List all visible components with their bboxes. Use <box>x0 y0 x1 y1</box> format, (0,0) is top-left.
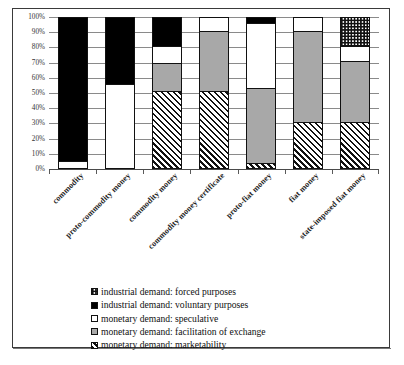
bar-segment[interactable] <box>293 31 323 122</box>
bar-stack[interactable] <box>105 17 135 169</box>
legend-swatch-icon <box>91 342 98 349</box>
y-axis-tick-label: 30% <box>32 119 45 127</box>
bar-segment[interactable] <box>246 17 276 23</box>
legend-label: monetary demand: speculative <box>101 314 218 324</box>
bar-segment[interactable] <box>152 63 182 92</box>
x-axis-category-label: commodity money <box>126 171 179 224</box>
bar-segment[interactable] <box>293 17 323 31</box>
bar-stack[interactable] <box>246 17 276 169</box>
bar-segment[interactable] <box>199 91 229 169</box>
plot-area <box>49 17 379 170</box>
bar-stack[interactable] <box>293 17 323 169</box>
x-axis-category-label: fiat money <box>287 171 320 204</box>
bar-segment[interactable] <box>58 161 88 169</box>
y-axis-tick-labels: 0%10%20%30%40%50%60%70%80%90%100% <box>13 9 47 169</box>
bar-segment[interactable] <box>199 31 229 92</box>
bar-segment[interactable] <box>152 46 182 63</box>
bar-stack[interactable] <box>152 17 182 169</box>
y-axis-tick-label: 20% <box>32 135 45 143</box>
bar-segment[interactable] <box>246 23 276 88</box>
y-axis-tick-label: 90% <box>32 28 45 36</box>
chart-frame: 0%10%20%30%40%50%60%70%80%90%100% commod… <box>12 8 390 348</box>
y-axis-tick-label: 50% <box>32 89 45 97</box>
legend-label: industrial demand: voluntary purposes <box>101 300 248 310</box>
x-axis-category-labels: commodityproto-commodity moneycommodity … <box>49 171 389 261</box>
bar-segment[interactable] <box>340 46 370 61</box>
bar-segment[interactable] <box>246 163 276 169</box>
bar-segment[interactable] <box>105 17 135 84</box>
y-axis-tick-label: 10% <box>32 150 45 158</box>
y-axis-tick-label: 100% <box>28 13 45 21</box>
bar-stack[interactable] <box>58 17 88 169</box>
chart-legend: industrial demand: forced purposesindust… <box>91 285 266 352</box>
bar-segment[interactable] <box>199 17 229 31</box>
legend-swatch-icon <box>91 315 98 322</box>
bar-segment[interactable] <box>152 17 182 46</box>
y-axis-tick-label: 70% <box>32 59 45 67</box>
y-axis-tick-label: 60% <box>32 74 45 82</box>
bar-segment[interactable] <box>340 61 370 122</box>
legend-item[interactable]: industrial demand: forced purposes <box>91 285 266 298</box>
legend-item[interactable]: industrial demand: voluntary purposes <box>91 298 266 311</box>
bar-segment[interactable] <box>58 17 88 161</box>
legend-item[interactable]: monetary demand: facilitation of exchang… <box>91 325 266 338</box>
bar-segment[interactable] <box>246 88 276 162</box>
bar-stack[interactable] <box>199 17 229 169</box>
legend-label: industrial demand: forced purposes <box>101 287 236 297</box>
bar-segment[interactable] <box>293 122 323 169</box>
x-axis-category-label: commodity <box>50 171 85 206</box>
legend-swatch-icon <box>91 302 98 309</box>
x-axis-line <box>49 169 379 170</box>
legend-label: monetary demand: marketability <box>101 340 226 350</box>
legend-label: monetary demand: facilitation of exchang… <box>101 327 266 337</box>
bar-segment[interactable] <box>105 84 135 169</box>
plot-wrapper: 0%10%20%30%40%50%60%70%80%90%100% commod… <box>13 9 391 181</box>
bar-stack[interactable] <box>340 17 370 169</box>
y-axis-tick-label: 0% <box>35 165 45 173</box>
y-axis-tick-label: 40% <box>32 104 45 112</box>
bar-segment[interactable] <box>152 91 182 169</box>
legend-item[interactable]: monetary demand: speculative <box>91 312 266 325</box>
x-axis-category-label: proto-fiat money <box>224 171 273 220</box>
legend-swatch-icon <box>91 328 98 335</box>
legend-swatch-icon <box>91 288 98 295</box>
bar-segment[interactable] <box>340 17 370 46</box>
bar-segment[interactable] <box>340 122 370 169</box>
x-axis-category-label: commodity money certificate <box>146 171 226 251</box>
legend-item[interactable]: monetary demand: marketability <box>91 339 266 352</box>
y-axis-tick-label: 80% <box>32 43 45 51</box>
